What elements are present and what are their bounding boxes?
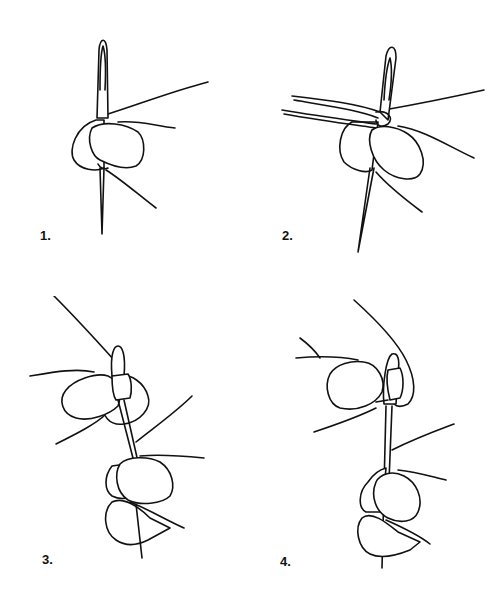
step-3-panel: 3.	[0, 296, 248, 592]
step-2-label: 2.	[282, 228, 293, 243]
step-2-panel: 2.	[248, 0, 496, 296]
step-1-label: 1.	[40, 228, 51, 243]
step-3-illustration	[0, 296, 248, 592]
step-1-illustration	[0, 0, 248, 296]
step-4-panel: 4.	[248, 296, 496, 592]
step-2-illustration	[248, 0, 496, 296]
step-3-label: 3.	[42, 552, 53, 567]
step-4-label: 4.	[280, 554, 291, 569]
step-4-illustration	[248, 296, 496, 592]
step-1-panel: 1.	[0, 0, 248, 296]
